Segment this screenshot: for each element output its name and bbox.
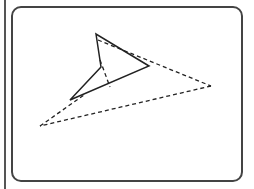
dashed-segment	[40, 95, 84, 126]
dashed-segment	[40, 86, 211, 126]
geometry-figure	[0, 0, 254, 189]
dashed-construction-lines	[40, 40, 211, 126]
dashed-segment	[98, 40, 211, 86]
solid-quadrilateral	[70, 34, 149, 100]
